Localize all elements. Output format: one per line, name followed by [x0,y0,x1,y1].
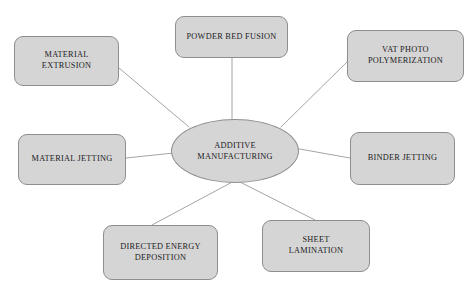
node-directed-energy-deposition[interactable]: DIRECTED ENERGY DEPOSITION [103,225,218,280]
node-binder-jetting-label: BINDER JETTING [368,153,438,164]
node-material-extrusion[interactable]: MATERIAL EXTRUSION [14,36,119,86]
connector-directed-energy-deposition [152,180,236,225]
connector-vat-photo-polymerization [281,62,347,127]
node-sheet-lamination-label: SHEET LAMINATION [289,235,344,257]
diagram-canvas: ADDITIVE MANUFACTURING MATERIAL EXTRUSIO… [0,0,470,294]
connector-material-jetting [126,153,174,158]
connector-sheet-lamination [236,180,315,220]
hub-node-label: ADDITIVE MANUFACTURING [197,140,272,162]
node-material-extrusion-label: MATERIAL EXTRUSION [42,50,91,72]
node-material-jetting-label: MATERIAL JETTING [32,154,113,165]
node-powder-bed-fusion[interactable]: POWDER BED FUSION [175,16,288,58]
node-vat-photo-polymerization-label: VAT PHOTO POLYMERIZATION [368,45,443,67]
node-sheet-lamination[interactable]: SHEET LAMINATION [262,220,370,272]
connector-binder-jetting [294,148,350,158]
node-directed-energy-deposition-label: DIRECTED ENERGY DEPOSITION [120,242,201,264]
node-material-jetting[interactable]: MATERIAL JETTING [18,134,126,185]
node-binder-jetting[interactable]: BINDER JETTING [350,132,455,185]
hub-node-additive-manufacturing[interactable]: ADDITIVE MANUFACTURING [171,119,299,183]
node-powder-bed-fusion-label: POWDER BED FUSION [187,32,277,43]
node-vat-photo-polymerization[interactable]: VAT PHOTO POLYMERIZATION [347,30,464,82]
connector-material-extrusion [119,68,189,127]
